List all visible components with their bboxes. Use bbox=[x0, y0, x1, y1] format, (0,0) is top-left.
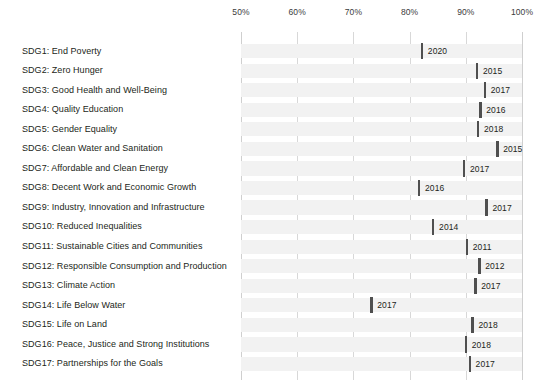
category-label: SDG6: Clean Water and Sanitation bbox=[22, 139, 163, 159]
value-label: 2017 bbox=[481, 281, 500, 291]
value-label: 2016 bbox=[425, 183, 444, 193]
value-marker bbox=[484, 82, 486, 98]
chart-row: 2016 bbox=[241, 100, 522, 120]
chart-row: 2015 bbox=[241, 139, 522, 159]
x-tick-label: 50% bbox=[232, 7, 249, 17]
bar-track bbox=[241, 64, 522, 78]
chart-row: 2012 bbox=[241, 257, 522, 277]
value-marker bbox=[479, 102, 481, 118]
bar-track bbox=[241, 44, 522, 58]
value-marker bbox=[370, 297, 372, 313]
category-label: SDG11: Sustainable Cities and Communitie… bbox=[22, 237, 202, 257]
category-label: SDG10: Reduced Inequalities bbox=[22, 217, 142, 237]
chart-row: 2017 bbox=[241, 276, 522, 296]
value-label: 2012 bbox=[485, 261, 504, 271]
chart-row: 2016 bbox=[241, 178, 522, 198]
bar-track bbox=[241, 142, 522, 156]
chart-row: 2020 bbox=[241, 42, 522, 62]
value-marker bbox=[478, 258, 480, 274]
bar-rows: 2020201520172016201820152017201620172014… bbox=[241, 32, 522, 380]
value-label: 2014 bbox=[439, 222, 458, 232]
bar-track bbox=[241, 181, 522, 195]
value-marker bbox=[466, 239, 468, 255]
category-label: SDG15: Life on Land bbox=[22, 315, 107, 335]
value-label: 2017 bbox=[476, 359, 495, 369]
chart-row: 2011 bbox=[241, 237, 522, 257]
value-label: 2017 bbox=[492, 203, 511, 213]
bar-track bbox=[241, 200, 522, 214]
value-marker bbox=[469, 356, 471, 372]
category-label: SDG8: Decent Work and Economic Growth bbox=[22, 178, 196, 198]
category-label: SDG4: Quality Education bbox=[22, 100, 123, 120]
category-label: SDG16: Peace, Justice and Strong Institu… bbox=[22, 335, 209, 355]
chart-row: 2017 bbox=[241, 296, 522, 316]
value-marker bbox=[421, 43, 423, 59]
bar-track bbox=[241, 279, 522, 293]
value-label: 2018 bbox=[484, 124, 503, 134]
value-marker bbox=[471, 317, 473, 333]
category-label: SDG17: Partnerships for the Goals bbox=[22, 354, 163, 374]
category-label: SDG3: Good Health and Well-Being bbox=[22, 81, 167, 101]
plot-area: 2020201520172016201820152017201620172014… bbox=[241, 32, 522, 380]
category-label: SDG7: Affordable and Clean Energy bbox=[22, 159, 168, 179]
value-label: 2015 bbox=[483, 66, 502, 76]
value-label: 2017 bbox=[470, 164, 489, 174]
category-label: SDG5: Gender Equality bbox=[22, 120, 117, 140]
chart-row: 2018 bbox=[241, 335, 522, 355]
bar-track bbox=[241, 220, 522, 234]
value-label: 2016 bbox=[486, 105, 505, 115]
value-marker bbox=[476, 63, 478, 79]
value-label: 2018 bbox=[472, 340, 491, 350]
value-label: 2017 bbox=[491, 85, 510, 95]
chart-row: 2015 bbox=[241, 61, 522, 81]
chart-row: 2018 bbox=[241, 120, 522, 140]
chart-row: 2014 bbox=[241, 217, 522, 237]
x-tick-label: 80% bbox=[401, 7, 418, 17]
x-axis-tick-labels: 50%60%70%80%90%100% bbox=[0, 0, 556, 32]
x-tick-label: 60% bbox=[289, 7, 306, 17]
value-marker bbox=[463, 160, 465, 176]
sdg-coverage-chart: 50%60%70%80%90%100% SDG1: End PovertySDG… bbox=[0, 0, 556, 385]
chart-row: 2017 bbox=[241, 81, 522, 101]
bar-track bbox=[241, 83, 522, 97]
x-tick-label: 90% bbox=[457, 7, 474, 17]
chart-row: 2017 bbox=[241, 354, 522, 374]
value-marker bbox=[474, 278, 476, 294]
value-marker bbox=[496, 141, 498, 157]
category-labels: SDG1: End PovertySDG2: Zero HungerSDG3: … bbox=[0, 32, 232, 380]
value-label: 2020 bbox=[428, 46, 447, 56]
value-marker bbox=[485, 199, 487, 215]
value-marker bbox=[418, 180, 420, 196]
bar-track bbox=[241, 122, 522, 136]
category-label: SDG13: Climate Action bbox=[22, 276, 115, 296]
category-label: SDG12: Responsible Consumption and Produ… bbox=[22, 257, 227, 277]
x-tick-label: 70% bbox=[345, 7, 362, 17]
value-label: 2011 bbox=[473, 242, 492, 252]
category-label: SDG14: Life Below Water bbox=[22, 296, 125, 316]
value-label: 2018 bbox=[478, 320, 497, 330]
value-label: 2015 bbox=[503, 144, 522, 154]
category-label: SDG2: Zero Hunger bbox=[22, 61, 103, 81]
category-label: SDG9: Industry, Innovation and Infrastru… bbox=[22, 198, 205, 218]
value-label: 2017 bbox=[377, 300, 396, 310]
category-label: SDG1: End Poverty bbox=[22, 42, 101, 62]
chart-row: 2017 bbox=[241, 159, 522, 179]
x-tick-label: 100% bbox=[511, 7, 533, 17]
value-marker bbox=[465, 336, 467, 352]
chart-row: 2018 bbox=[241, 315, 522, 335]
value-marker bbox=[477, 121, 479, 137]
value-marker bbox=[432, 219, 434, 235]
gridline bbox=[522, 32, 523, 380]
chart-row: 2017 bbox=[241, 198, 522, 218]
